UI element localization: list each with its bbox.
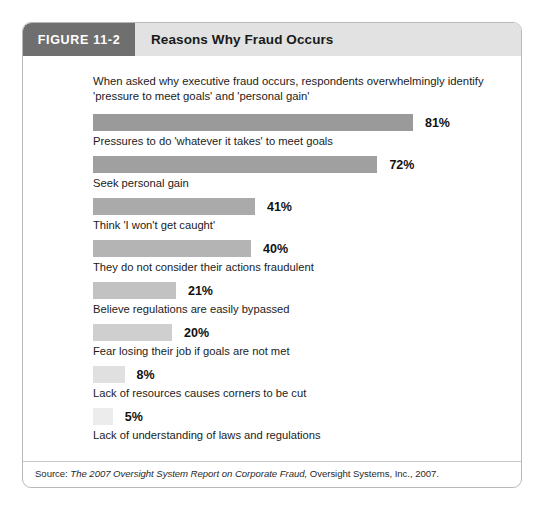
bar-row: 41% [93,198,511,215]
bar [93,240,251,257]
bar-group: 21%Believe regulations are easily bypass… [93,282,511,316]
bar-category-label: Lack of understanding of laws and regula… [93,428,511,442]
bar-chart: 81%Pressures to do 'whatever it takes' t… [93,114,511,450]
bar-row: 8% [93,366,511,383]
bar-value-label: 5% [125,410,143,424]
bar-category-label: Think 'I won't get caught' [93,218,511,232]
bar [93,282,176,299]
bar-group: 40%They do not consider their actions fr… [93,240,511,274]
chart-subtitle: When asked why executive fraud occurs, r… [93,74,493,103]
figure-title: Reasons Why Fraud Occurs [151,23,333,56]
bar [93,324,172,341]
bar-value-label: 40% [263,242,288,256]
figure-card: FIGURE 11-2 Reasons Why Fraud Occurs Whe… [22,22,522,488]
bar [93,156,377,173]
figure-header: FIGURE 11-2 Reasons Why Fraud Occurs [23,23,521,56]
source-prefix: Source: [35,468,70,479]
source-title: The 2007 Oversight System Report on Corp… [70,468,307,479]
bar-value-label: 72% [389,158,414,172]
bar-category-label: Seek personal gain [93,176,511,190]
chart-body: When asked why executive fraud occurs, r… [23,56,521,487]
bar-value-label: 20% [184,326,209,340]
bar-category-label: They do not consider their actions fraud… [93,260,511,274]
bar-category-label: Believe regulations are easily bypassed [93,302,511,316]
bar [93,198,255,215]
bar-value-label: 81% [425,116,450,130]
source-suffix: Oversight Systems, Inc., 2007. [307,468,439,479]
bar-value-label: 8% [137,368,155,382]
bar-row: 40% [93,240,511,257]
source-note: Source: The 2007 Oversight System Report… [35,468,509,479]
bar [93,114,413,131]
bar-row: 81% [93,114,511,131]
bar-row: 72% [93,156,511,173]
bar-category-label: Fear losing their job if goals are not m… [93,344,511,358]
source-divider [23,461,521,462]
bar [93,408,113,425]
figure-number-tag: FIGURE 11-2 [23,23,135,56]
bar-row: 21% [93,282,511,299]
bar-value-label: 21% [188,284,213,298]
bar-group: 8%Lack of resources causes corners to be… [93,366,511,400]
bar-group: 41%Think 'I won't get caught' [93,198,511,232]
bar-value-label: 41% [267,200,292,214]
bar-group: 5%Lack of understanding of laws and regu… [93,408,511,442]
bar-group: 81%Pressures to do 'whatever it takes' t… [93,114,511,148]
bar-category-label: Pressures to do 'whatever it takes' to m… [93,134,511,148]
bar [93,366,125,383]
bar-row: 5% [93,408,511,425]
bar-row: 20% [93,324,511,341]
bar-category-label: Lack of resources causes corners to be c… [93,386,511,400]
bar-group: 20%Fear losing their job if goals are no… [93,324,511,358]
bar-group: 72%Seek personal gain [93,156,511,190]
